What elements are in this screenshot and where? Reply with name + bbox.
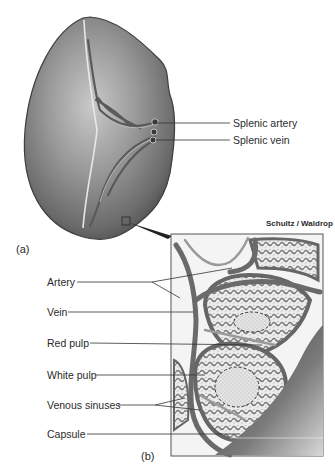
spleen-organ [24,17,174,239]
label-vein: Vein [47,306,67,318]
label-artery: Artery [47,276,75,288]
part-b-label: (b) [141,450,154,462]
label-red-pulp: Red pulp [47,337,89,349]
label-white-pulp: White pulp [47,369,97,381]
label-splenic-artery: Splenic artery [233,117,297,129]
illustrator-credit: Schultz / Waldrop [266,219,333,228]
label-splenic-vein: Splenic vein [233,134,290,146]
part-a-label: (a) [16,243,29,255]
label-capsule: Capsule [47,428,86,440]
label-venous-sinuses: Venous sinuses [47,399,121,411]
